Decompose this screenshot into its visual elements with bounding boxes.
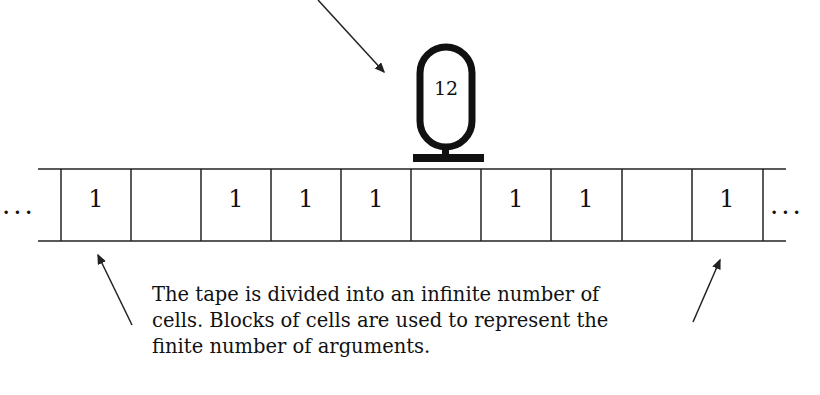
tape-cell: 1 [228, 185, 243, 213]
tape-cell: 1 [578, 185, 593, 213]
tape-cell: 1 [88, 185, 103, 213]
head-pointer-arrow [318, 0, 384, 72]
tape-cell: 1 [508, 185, 523, 213]
caption-line: cells. Blocks of cells are used to repre… [152, 308, 712, 334]
head-state-label: 12 [434, 77, 458, 99]
tape-cell: 1 [719, 185, 734, 213]
right-ellipsis: ... [770, 190, 804, 220]
caption: The tape is divided into an infinite num… [152, 282, 712, 360]
tape-cell: 1 [368, 185, 383, 213]
read-write-head: 12 [413, 47, 484, 162]
tape: 1 1 1 1 1 1 1 [38, 169, 786, 241]
caption-line: finite number of arguments. [152, 334, 712, 360]
tape-cell: 1 [298, 185, 313, 213]
left-caption-arrow [98, 255, 132, 325]
caption-line: The tape is divided into an infinite num… [152, 282, 712, 308]
left-ellipsis: ... [2, 190, 36, 220]
